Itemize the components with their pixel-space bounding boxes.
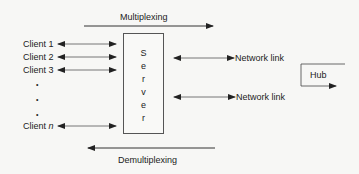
hub-label: Hub [310,70,327,80]
server-letter: r [124,74,163,84]
client-n-prefix: Client [23,121,49,131]
ellipsis-dot: • [36,110,38,120]
server-letter: S [124,48,163,58]
client-n-label: Client n [23,121,54,131]
client-2-label: Client 2 [23,52,54,62]
server-box: S e r v e r [123,33,164,134]
client-3-label: Client 3 [23,65,54,75]
network-link-1-label: Network link [235,53,284,63]
multiplexing-label: Multiplexing [120,12,168,22]
diagram-arrows [0,0,359,174]
ellipsis-dot: • [36,80,38,90]
server-letter: r [124,113,163,123]
client-1-label: Client 1 [23,39,54,49]
network-link-2-label: Network link [236,92,285,102]
ellipsis-dot: • [36,95,38,105]
demultiplexing-label: Demultiplexing [118,155,177,165]
client-n-variable: n [49,121,54,131]
server-letter: e [124,61,163,71]
multiplexing-diagram: Multiplexing Client 1 Client 2 Client 3 … [0,0,359,174]
server-letter: e [124,100,163,110]
server-letter: v [124,87,163,97]
